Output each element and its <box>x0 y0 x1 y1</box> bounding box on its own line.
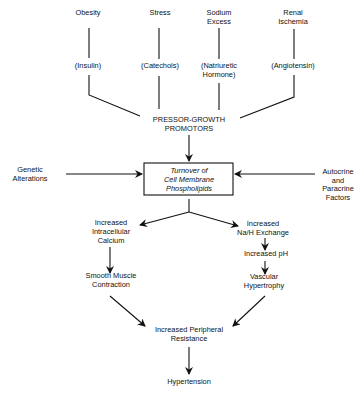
node-line: Na/H Exchange <box>237 228 289 237</box>
promotors-line: PROMOTORS <box>165 124 213 133</box>
cause-label: Excess <box>207 17 231 26</box>
cause-label: Obesity <box>75 8 100 17</box>
node-line: Resistance <box>171 334 208 343</box>
input-line: Paracrine <box>322 184 354 193</box>
input-line: Factors <box>326 193 351 202</box>
mediator-label: (Insulin) <box>75 61 101 70</box>
cause-stress: Stress (Catechols) <box>141 8 179 70</box>
hypertension-pathway-diagram: Obesity (Insulin) Stress (Catechols) Sod… <box>0 0 364 396</box>
genetic-alterations: Genetic Alterations <box>13 165 48 183</box>
mediator-label: (Catechols) <box>141 61 179 70</box>
cause-label: Stress <box>150 8 171 17</box>
input-line: Autocrine <box>322 167 353 176</box>
cause-label: Renal <box>283 8 303 17</box>
node-line: Smooth Muscle <box>86 271 137 280</box>
cause-label: Sodium <box>206 8 231 17</box>
increased-na-h-exchange: Increased Na/H Exchange <box>237 219 289 237</box>
connector-line <box>89 75 140 116</box>
node-line: Vascular <box>250 272 279 281</box>
cause-obesity: Obesity (Insulin) <box>75 8 101 70</box>
increased-peripheral-resistance: Increased Peripheral Resistance <box>155 325 224 343</box>
node-line: Increased Peripheral <box>155 325 224 334</box>
node-line: Calcium <box>98 236 125 245</box>
smooth-muscle-contraction: Smooth Muscle Contraction <box>86 271 137 289</box>
promotors-line: PRESSOR-GROWTH <box>153 115 225 124</box>
arrow-split-right <box>189 212 238 226</box>
node-line: Hypertrophy <box>244 281 285 290</box>
connector-line <box>240 75 294 118</box>
box-line: Cell Membrane <box>164 175 214 184</box>
arrow-split-left <box>140 212 189 225</box>
node-line: Contraction <box>92 280 130 289</box>
arrow-converge-right <box>233 296 265 326</box>
node-line: Increased <box>95 218 127 227</box>
arrow-converge-left <box>110 296 145 326</box>
increased-ph: Increased pH <box>244 249 288 258</box>
mediator-label: (Natriuretic <box>201 61 237 70</box>
autocrine-paracrine-factors: Autocrine and Paracrine Factors <box>322 167 354 202</box>
box-line: Phospholipids <box>166 184 212 193</box>
cause-renal-ischemia: Renal Ischemia (Angiotensin) <box>271 8 315 70</box>
input-line: Alterations <box>13 174 48 183</box>
input-line: Genetic <box>17 165 43 174</box>
outcome-label: Hypertension <box>167 377 211 386</box>
node-line: Intracellular <box>92 227 131 236</box>
turnover-box: Turnover of Cell Membrane Phospholipids <box>144 163 233 195</box>
mediator-label: Hormone) <box>203 70 236 79</box>
vascular-hypertrophy: Vascular Hypertrophy <box>244 272 285 290</box>
pressor-growth-promotors: PRESSOR-GROWTH PROMOTORS <box>153 115 225 133</box>
increased-intracellular-calcium: Increased Intracellular Calcium <box>92 218 131 245</box>
mediator-label: (Angiotensin) <box>271 61 315 70</box>
hypertension: Hypertension <box>167 377 211 386</box>
node-line: Increased pH <box>244 249 288 258</box>
node-line: Increased <box>247 219 279 228</box>
box-line: Turnover of <box>170 166 208 175</box>
cause-label: Ischemia <box>278 17 308 26</box>
